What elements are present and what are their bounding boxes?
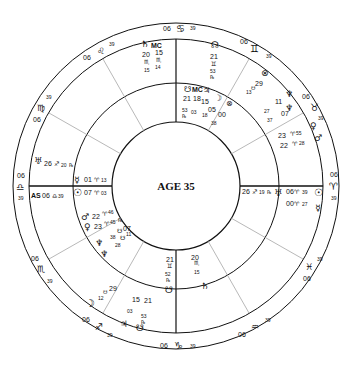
svg-text:20: 20 [61,162,67,168]
svg-text:06: 06 [163,25,171,32]
svg-text:28: 28 [299,140,305,146]
leo-icon: ♌ [97,46,105,56]
svg-text:♊: ♊ [167,262,172,269]
svg-text:05: 05 [208,106,216,113]
svg-text:45: 45 [110,219,116,225]
svg-text:38: 38 [110,234,116,240]
svg-text:19: 19 [259,189,265,195]
svg-text:15: 15 [144,67,150,73]
taurus-icon: ♉ [310,102,319,113]
svg-text:MC: MC [151,42,162,49]
svg-text:29: 29 [255,80,263,87]
svg-text:♐: ♐ [54,160,59,167]
svg-text:39: 39 [107,332,113,338]
sagittarius-icon: ♐ [95,322,103,332]
jupiter-icon: ♃ [203,86,210,95]
pisces-icon: ♓ [305,262,313,272]
svg-text:39: 39 [18,195,24,201]
svg-text:18: 18 [193,95,201,102]
svg-text:23: 23 [278,132,286,139]
svg-text:03: 03 [191,109,197,115]
uranus-icon: ♅ [34,156,42,166]
svg-text:39: 39 [302,189,308,195]
sun-icon: ☉ [73,187,82,198]
svg-text:00: 00 [218,111,226,118]
svg-text:39: 39 [46,94,52,100]
jupiter-icon: ♃ [120,319,128,329]
aries-icon: ♈ [329,181,338,192]
svg-text:♊: ♊ [211,60,216,67]
svg-text:06: 06 [82,316,90,323]
svg-text:06: 06 [238,331,246,338]
part-of-fortune-icon: ⊗ [261,68,269,78]
svg-text:06: 06 [240,38,248,45]
svg-text:MC: MC [192,86,203,93]
svg-text:♈: ♈ [294,188,300,195]
svg-text:15: 15 [194,269,200,275]
scorpio-icon: ♏ [37,264,45,274]
svg-text:28: 28 [115,242,121,248]
svg-text:06: 06 [33,116,41,123]
aquarius-icon: ♒ [251,322,259,332]
svg-text:39: 39 [190,25,196,31]
sun-icon: ☉ [314,187,323,198]
svg-text:℞: ℞ [69,162,74,168]
svg-text:37: 37 [267,117,273,123]
svg-text:♎: ♎ [52,192,57,199]
svg-text:39: 39 [317,256,323,262]
svg-text:21: 21 [144,297,152,304]
svg-text:00: 00 [286,200,294,207]
svg-text:11: 11 [275,98,282,105]
svg-text:20: 20 [142,51,150,58]
svg-text:06: 06 [31,255,39,262]
svg-text:♈: ♈ [294,200,300,207]
svg-text:27: 27 [302,201,308,207]
svg-text:13: 13 [101,177,107,183]
svg-text:☋: ☋ [103,289,108,295]
svg-text:♏: ♏ [194,259,200,266]
svg-text:06: 06 [330,171,338,178]
svg-text:℞: ℞ [267,189,272,195]
virgo-icon: ♍ [37,103,45,113]
venus-icon: ♀ [310,121,317,131]
uranus-icon: ♅ [274,188,282,198]
svg-text:26: 26 [44,160,52,167]
svg-text:15: 15 [201,98,209,105]
svg-text:39: 39 [331,195,337,201]
svg-text:07: 07 [84,189,92,196]
libra-icon: ♎ [16,182,24,192]
svg-text:22: 22 [280,142,288,149]
svg-text:21: 21 [183,95,191,102]
svg-text:13: 13 [246,89,252,95]
saturn-icon: ♄ [141,39,149,49]
moon-icon: ☽ [214,93,222,103]
svg-text:39: 39 [190,343,196,349]
neptune-icon: ♆ [285,89,293,99]
svg-text:☋: ☋ [117,227,122,234]
svg-text:07: 07 [281,110,289,117]
svg-text:39: 39 [58,193,64,199]
chart-wheel: 06 ♋ 39 06 ♊ 39 06 ♉ 39 06 ♈ 39 39 ♓ 06 … [0,0,353,370]
svg-text:22: 22 [92,213,100,220]
cancer-icon: ♋ [176,23,185,34]
svg-text:℞: ℞ [166,277,171,283]
svg-text:14: 14 [155,64,161,70]
mars-icon: ♂ [81,212,89,222]
svg-text:21: 21 [210,53,218,60]
north-node-icon: ☋ [165,285,173,295]
svg-text:38: 38 [211,120,217,126]
svg-text:℞: ℞ [182,113,187,119]
svg-text:29: 29 [109,285,117,292]
neptune-icon: ♆ [95,238,103,248]
svg-text:27: 27 [264,108,270,114]
svg-text:06: 06 [17,172,25,179]
svg-text:55: 55 [296,130,302,136]
svg-text:15: 15 [155,49,163,56]
svg-text:06: 06 [286,188,294,195]
svg-text:♈: ♈ [94,176,100,183]
svg-text:♐: ♐ [252,188,257,195]
svg-text:03: 03 [101,190,107,196]
svg-text:♈: ♈ [94,189,100,196]
svg-text:46: 46 [108,209,114,215]
ascendant-label: AS [31,192,41,199]
